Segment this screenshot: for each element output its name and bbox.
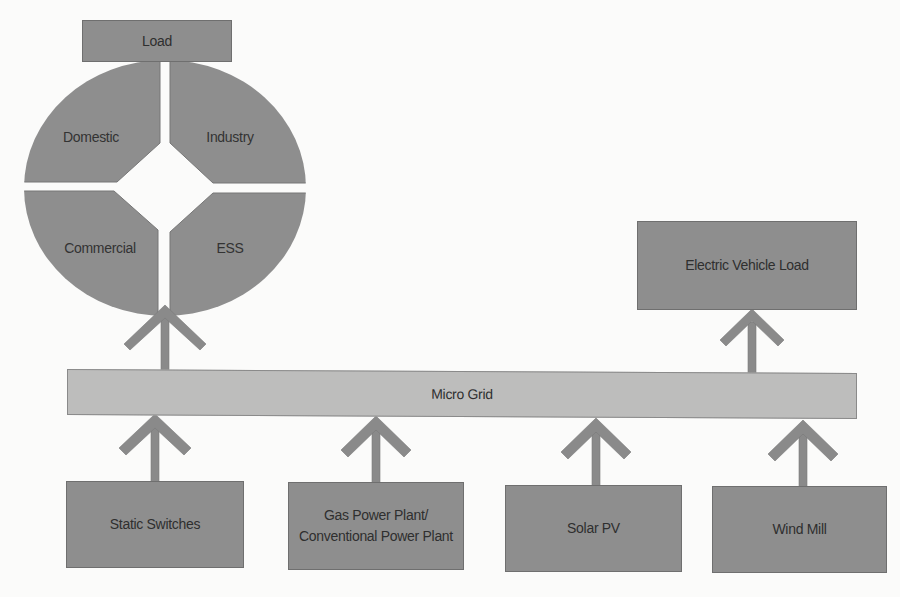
arrow-up-icon [720, 309, 784, 378]
source-box-gas-power-plant: Gas Power Plant/ Conventional Power Plan… [288, 482, 464, 570]
ev-load-box: Electric Vehicle Load [637, 221, 857, 310]
load-label: Load [142, 31, 172, 52]
micro-grid-bar: Micro Grid [67, 369, 857, 419]
source-label: Wind Mill [772, 519, 826, 540]
arrow-up-icon [124, 305, 206, 372]
micro-grid-label: Micro Grid [431, 383, 493, 404]
source-box-wind-mill: Wind Mill [712, 486, 887, 573]
source-box-solar-pv: Solar PV [505, 485, 682, 572]
segment-commercial [0, 191, 158, 330]
source-label: Solar PV [567, 518, 620, 539]
diagram-canvas: Load Domestic Industry Commercial ESS El… [0, 0, 900, 597]
arrow-up-icon [768, 420, 838, 488]
ev-load-label: Electric Vehicle Load [685, 255, 809, 276]
source-label: Static Switches [110, 514, 200, 535]
arrow-up-icon [341, 416, 411, 484]
segment-ess [170, 193, 320, 330]
segment-label-industry: Industry [206, 129, 253, 145]
source-label: Gas Power Plant/ Conventional Power Plan… [297, 505, 455, 547]
segment-label-commercial: Commercial [64, 240, 136, 256]
arrow-up-icon [119, 414, 191, 482]
source-box-static-switches: Static Switches [66, 481, 244, 568]
segment-label-ess: ESS [216, 240, 243, 256]
arrow-up-icon [561, 418, 631, 487]
segment-label-domestic: Domestic [63, 129, 119, 145]
load-box: Load [82, 20, 232, 62]
